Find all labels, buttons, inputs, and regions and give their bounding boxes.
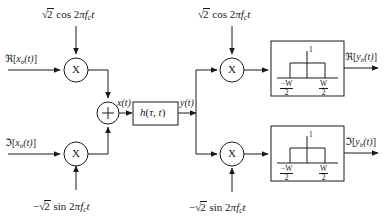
imag-part-operator-1: ℑ — [5, 137, 12, 148]
rx-carrier-bottom-trig: sin 2 — [210, 201, 231, 213]
time-symbol-1: t — [91, 8, 94, 20]
channel-block-label: h(τ, t) — [140, 107, 165, 118]
input-real-label: ℜ[xb(t)] — [5, 54, 37, 66]
tx-carrier-top-trig: cos 2 — [56, 8, 79, 20]
sqrt-two-glyph-4: √2 — [195, 201, 207, 213]
real-part-operator-2: ℜ — [345, 51, 353, 62]
imag-part-operator-2: ℑ — [345, 136, 352, 147]
rx-carrier-top-trig: cos 2 — [212, 8, 235, 20]
multiplier-rx-top-label: X — [224, 64, 240, 75]
tx-carrier-bottom-trig: sin 2 — [54, 200, 75, 212]
time-symbol-2: t — [87, 200, 90, 212]
signal-y-of-t-label: y(t) — [180, 98, 194, 108]
output-imag-label: ℑ[yb(t)] — [345, 137, 376, 149]
wire-tx-top-to-summer — [88, 70, 108, 98]
wire-tx-bottom-to-summer — [88, 127, 108, 154]
diagram-wiring — [0, 0, 388, 222]
rx-carrier-bottom-label: −√2 sin 2πfct — [189, 201, 246, 215]
lpf-bottom-right-edge-label: W 2 — [319, 165, 328, 182]
block-diagram-figure: X X X X √2 cos 2πfct −√2 sin 2πfct ℜ[xb(… — [0, 0, 388, 222]
sqrt-two-glyph: √2 — [42, 8, 54, 20]
multiplier-rx-bottom-label: X — [224, 148, 240, 159]
input-imag-label: ℑ[xb(t)] — [5, 138, 36, 150]
time-symbol-4: t — [243, 201, 246, 213]
lpf-top-left-edge-label: −W 2 — [280, 80, 293, 97]
lpf-top-amplitude-label: 1 — [309, 46, 313, 54]
multiplier-tx-top-label: X — [68, 64, 84, 75]
time-symbol-3: t — [247, 8, 250, 20]
tx-carrier-top-label: √2 cos 2πfct — [42, 8, 94, 22]
lpf-top-right-edge-label: W 2 — [319, 80, 328, 97]
sqrt-two-glyph-3: √2 — [198, 8, 210, 20]
tx-carrier-bottom-label: −√2 sin 2πfct — [33, 200, 90, 214]
signal-x-of-t-label: x(t) — [117, 98, 131, 108]
output-real-label: ℜ[yb(t)] — [345, 52, 377, 64]
sqrt-two-glyph-2: √2 — [39, 200, 51, 212]
real-part-operator-1: ℜ — [5, 53, 13, 64]
rx-carrier-top-label: √2 cos 2πfct — [198, 8, 250, 22]
lpf-bottom-amplitude-label: 1 — [309, 131, 313, 139]
multiplier-tx-bottom-label: X — [68, 148, 84, 159]
lpf-bottom-left-edge-label: −W 2 — [280, 165, 293, 182]
